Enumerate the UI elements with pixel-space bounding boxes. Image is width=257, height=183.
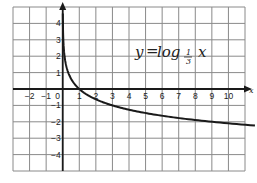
equation-base-numerator: 1 [186, 48, 191, 57]
x-tick-label: 1 [77, 91, 82, 101]
equation-lhs: y [134, 43, 144, 61]
y-tick-label: −3 [51, 133, 61, 143]
x-tick-label: −1 [41, 91, 51, 101]
x-tick-label: 6 [160, 91, 165, 101]
x-tick-label: 3 [110, 91, 115, 101]
y-tick-label: −4 [51, 150, 61, 160]
y-tick-label: 4 [56, 18, 61, 28]
x-tick-label: 7 [176, 91, 181, 101]
x-tick-label: 8 [193, 91, 198, 101]
equation-arg: x [198, 43, 207, 61]
x-tick-label: 5 [143, 91, 148, 101]
y-tick-label: 2 [56, 51, 61, 61]
x-axis-label: x [249, 86, 254, 95]
y-axis-arrow-icon [59, 2, 66, 10]
axes [13, 2, 252, 171]
equation-annotation: y = log 1 3 x [134, 42, 207, 66]
x-tick-label: −2 [25, 91, 35, 101]
equation-base-denominator: 3 [186, 57, 191, 66]
equation-func: log [157, 43, 180, 61]
y-tick-label: −2 [51, 117, 61, 127]
y-tick-label: −1 [51, 100, 61, 110]
x-tick-label: 9 [209, 91, 214, 101]
log-curve [63, 14, 255, 126]
x-tick-label: 4 [127, 91, 132, 101]
x-tick-label: 10 [224, 91, 234, 101]
y-tick-label: 1 [56, 68, 61, 78]
y-tick-label: 3 [56, 35, 61, 45]
log-graph: −2−1012345678910 4321−1−2−3−4 x y = log … [0, 0, 257, 183]
